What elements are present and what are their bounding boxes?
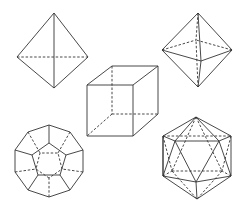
icosahedron bbox=[163, 117, 231, 199]
tetrahedron bbox=[17, 13, 88, 88]
dodecahedron bbox=[15, 125, 83, 197]
cube bbox=[87, 66, 158, 136]
octahedron bbox=[162, 13, 232, 87]
platonic-solids-diagram bbox=[0, 0, 247, 217]
